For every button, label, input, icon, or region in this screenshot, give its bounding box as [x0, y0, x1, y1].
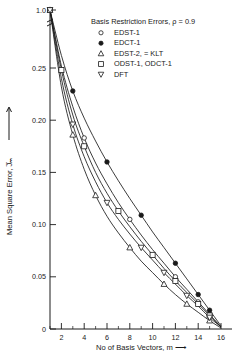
x-tick-label: 2 — [59, 333, 63, 342]
x-tick: 8 — [128, 323, 132, 342]
legend-item: EDST-1 — [99, 28, 140, 37]
marker-circle-filled-icon — [99, 41, 103, 45]
chart-figure: 00.050.100.150.200.251.0 246810121416 Me… — [0, 0, 241, 357]
basis-restriction-error-plot: 00.050.100.150.200.251.0 246810121416 Me… — [0, 0, 241, 357]
legend-item-label: EDST-2, = KLT — [114, 49, 164, 58]
y-axis-title: Mean Square Error, J̅ₘ — [5, 158, 14, 235]
x-tick-label: 8 — [128, 333, 132, 342]
y-tick: 0 — [42, 325, 56, 334]
y-tick: 1.0 — [36, 6, 56, 15]
x-tick-label: 14 — [194, 333, 202, 342]
x-tick-label: 12 — [171, 333, 179, 342]
legend-item-group: EDST-1EDCT-1EDST-2, = KLTODST-1, ODCT-1D… — [98, 28, 172, 79]
marker-circle-open-icon — [82, 136, 86, 140]
legend-item-label: EDST-1 — [114, 28, 140, 37]
marker-square-open-icon — [59, 68, 64, 73]
legend-item-label: EDCT-1 — [114, 38, 140, 47]
marker-circle-filled-icon — [139, 213, 143, 217]
marker-triangle-up-icon — [93, 192, 99, 197]
legend-item: EDCT-1 — [99, 38, 140, 47]
legend-item-label: DFT — [114, 70, 129, 79]
y-tick-label: 0 — [42, 325, 46, 334]
marker-circle-open-icon — [128, 217, 132, 221]
y-tick-group: 00.050.100.150.200.251.0 — [32, 6, 56, 334]
y-tick-label: 0.20 — [32, 116, 46, 125]
x-tick-label: 10 — [149, 333, 157, 342]
legend-item: EDST-2, = KLT — [98, 49, 164, 58]
marker-square-open-icon — [116, 208, 121, 213]
y-tick-label: 1.0 — [36, 6, 46, 15]
y-tick-label: 0.15 — [32, 168, 46, 177]
legend-item-label: ODST-1, ODCT-1 — [114, 59, 172, 68]
marker-square-open-icon — [196, 301, 201, 306]
y-tick: 0.20 — [32, 116, 56, 125]
marker-triangle-up-icon — [70, 132, 76, 137]
marker-square-open-icon — [150, 252, 155, 257]
marker-triangle-down-icon — [104, 200, 110, 205]
x-tick: 6 — [105, 323, 109, 342]
marker-square-open-icon — [173, 278, 178, 283]
legend-item: ODST-1, ODCT-1 — [99, 59, 172, 68]
x-tick: 12 — [171, 323, 179, 342]
x-tick: 2 — [59, 323, 63, 342]
x-tick: 4 — [82, 323, 86, 342]
marker-circle-open-icon — [99, 31, 103, 35]
y-axis-arrow-icon — [7, 107, 12, 140]
y-tick: 0.10 — [32, 220, 56, 229]
marker-triangle-down-icon — [98, 72, 104, 77]
y-tick-label: 0.25 — [32, 64, 46, 73]
marker-circle-filled-icon — [105, 160, 109, 164]
marker-circle-filled-icon — [207, 308, 211, 312]
x-tick: 14 — [194, 323, 202, 342]
marker-triangle-up-icon — [184, 301, 190, 306]
y-axis-title-group: Mean Square Error, J̅ₘ — [5, 107, 14, 235]
marker-circle-filled-icon — [196, 292, 200, 296]
legend-item: DFT — [98, 70, 129, 79]
y-tick-label: 0.10 — [32, 220, 46, 229]
y-tick: 0.25 — [32, 64, 56, 73]
x-tick-group: 246810121416 — [59, 323, 225, 342]
marker-square-open-icon — [82, 144, 87, 149]
x-axis-title: No of Basis Vectors, m ⟶ — [96, 343, 187, 352]
y-tick-label: 0.05 — [32, 272, 46, 281]
marker-circle-filled-icon — [173, 261, 177, 265]
legend: Basis Restriction Errors, ρ = 0.9 EDST-1… — [91, 17, 195, 79]
x-tick-label: 6 — [105, 333, 109, 342]
x-tick-label: 16 — [217, 333, 225, 342]
y-tick: 0.05 — [32, 272, 56, 281]
marker-triangle-up-icon — [98, 51, 104, 56]
x-tick-label: 4 — [82, 333, 86, 342]
legend-title: Basis Restriction Errors, ρ = 0.9 — [91, 17, 195, 26]
marker-circle-filled-icon — [71, 89, 75, 93]
y-tick: 0.15 — [32, 168, 56, 177]
x-tick: 10 — [149, 323, 157, 342]
marker-square-open-icon — [99, 62, 104, 67]
